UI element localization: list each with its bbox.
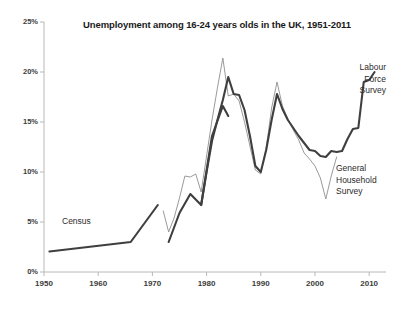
plot-area — [0, 0, 404, 310]
y-tick-label: 15% — [12, 117, 38, 126]
x-tick-label: 1980 — [187, 279, 227, 288]
unemployment-line-chart: Unemployment among 16-24 years olds in t… — [0, 0, 404, 310]
series-label-general-household-survey: GeneralHouseholdSurvey — [336, 163, 396, 198]
y-tick-label: 5% — [12, 217, 38, 226]
series-label-census: Census — [62, 216, 91, 228]
x-tick-label: 2000 — [295, 279, 335, 288]
series-line-census — [49, 205, 157, 252]
series-line-general-household-survey — [163, 58, 336, 232]
series-label-labour-force-survey: LabourForceSurvey — [330, 62, 386, 97]
y-tick-label: 25% — [12, 17, 38, 26]
x-tick-label: 1990 — [241, 279, 281, 288]
x-tick-label: 2010 — [349, 279, 389, 288]
x-tick-label: 1970 — [132, 279, 172, 288]
y-tick-label: 10% — [12, 167, 38, 176]
chart-title: Unemployment among 16-24 years olds in t… — [52, 19, 382, 30]
x-tick-label: 1950 — [24, 279, 64, 288]
x-tick-label: 1960 — [78, 279, 118, 288]
y-tick-label: 20% — [12, 67, 38, 76]
series-line-labour-force-survey-early — [169, 106, 229, 242]
y-tick-label: 0% — [12, 267, 38, 276]
